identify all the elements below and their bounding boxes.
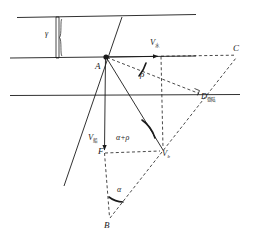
- angle-gamma-label: γ: [45, 30, 48, 38]
- point-a-marker: [103, 54, 108, 59]
- vector-a-to-f-ship: [105, 57, 106, 150]
- point-c-label: C: [233, 44, 239, 53]
- angle-alpha-plus-rho-label: α+ρ: [116, 134, 129, 142]
- point-a-label: A: [95, 62, 101, 71]
- point-d-sub: 登陆: [207, 97, 215, 102]
- point-vb-sub: b: [167, 154, 170, 159]
- dashed-vertical-vb: [161, 57, 163, 149]
- arc-alpha-plus-rho: [142, 120, 155, 138]
- point-d-label: D登陆: [201, 92, 215, 101]
- oblique-line-through-a: [64, 17, 122, 186]
- diagram-svg: [0, 0, 253, 241]
- bank-line-top: [17, 15, 196, 18]
- v-water-sub: 水: [155, 43, 159, 48]
- dashed-f-to-b: [105, 153, 110, 217]
- arc-alpha: [109, 197, 123, 202]
- point-vb-label: Vb: [162, 149, 170, 158]
- point-b-label: B: [104, 221, 110, 230]
- dashed-a-to-d: [107, 58, 199, 94]
- angle-alpha-label: α: [117, 186, 121, 194]
- dashed-a-to-c: [161, 55, 234, 56]
- angle-rho-label: ρ: [140, 70, 144, 79]
- point-f-label: F: [98, 147, 104, 156]
- diagram-canvas: γ A ρ V水 C D登陆 V船 F α+ρ Vb α B: [0, 0, 253, 241]
- dashed-f-to-vb: [105, 151, 160, 153]
- gamma-brace: [56, 17, 62, 58]
- v-ship-sub: 船: [93, 138, 97, 143]
- v-ship-label: V船: [88, 133, 97, 142]
- v-water-label: V水: [150, 38, 159, 47]
